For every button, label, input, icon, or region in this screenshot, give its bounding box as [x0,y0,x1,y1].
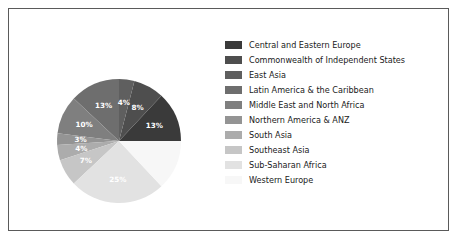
legend-label: Central and Eastern Europe [249,41,361,49]
legend-swatch [225,131,242,139]
legend-item[interactable]: South Asia [225,128,451,143]
legend-label: Northern America & ANZ [249,116,349,124]
legend-swatch [225,41,242,49]
pie-slice-label: 10% [76,120,93,129]
legend-label: Sub-Saharan Africa [249,161,327,169]
legend-label: Middle East and North Africa [249,101,364,109]
legend-swatch [225,101,242,109]
legend-item[interactable]: Western Europe [225,173,451,188]
legend-swatch [225,161,242,169]
pie-svg: 13%8%4%13%10%3%4%7%25% [57,79,181,203]
legend-item[interactable]: Commonwealth of Independent States [225,52,451,67]
pie-slice-label: 25% [109,175,126,184]
legend-item[interactable]: Northern America & ANZ [225,112,451,127]
legend-swatch [225,116,242,124]
pie-slice-label: 13% [95,101,112,110]
legend-swatch [225,56,242,64]
pie-chart: 13%8%4%13%10%3%4%7%25% [57,79,181,203]
pie-slice-label: 13% [146,121,163,130]
legend-label: Latin America & the Caribbean [249,86,374,94]
chart-legend: Central and Eastern EuropeCommonwealth o… [225,37,451,188]
pie-slice-label: 4% [75,144,87,153]
legend-item[interactable]: East Asia [225,67,451,82]
pie-slice-label: 4% [118,98,130,107]
legend-swatch [225,71,242,79]
pie-slice-label: 7% [80,156,92,165]
legend-swatch [225,146,242,154]
legend-label: Commonwealth of Independent States [249,56,405,64]
figure-canvas: 13%8%4%13%10%3%4%7%25% Central and Easte… [0,0,458,240]
legend-swatch [225,176,242,184]
pie-slice-label: 8% [131,103,143,112]
legend-item[interactable]: Central and Eastern Europe [225,37,451,52]
legend-item[interactable]: Sub-Saharan Africa [225,158,451,173]
chart-frame: 13%8%4%13%10%3%4%7%25% Central and Easte… [8,8,449,231]
legend-label: East Asia [249,71,286,79]
legend-label: Western Europe [249,176,313,184]
legend-item[interactable]: Middle East and North Africa [225,97,451,112]
legend-label: Southeast Asia [249,146,309,154]
legend-swatch [225,86,242,94]
legend-label: South Asia [249,131,292,139]
legend-item[interactable]: Latin America & the Caribbean [225,82,451,97]
legend-item[interactable]: Southeast Asia [225,143,451,158]
